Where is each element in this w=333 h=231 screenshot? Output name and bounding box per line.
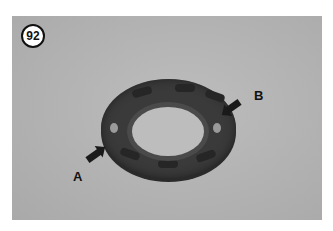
- callout-label-b: B: [254, 88, 263, 103]
- ring-slot: [158, 160, 178, 168]
- callout-label-a: A: [73, 169, 82, 184]
- figure-number-badge: 92: [21, 24, 45, 48]
- ring-center-hole: [132, 107, 204, 156]
- figure-number: 92: [26, 29, 39, 43]
- ring-mount-hole: [213, 123, 221, 133]
- ring-slot: [175, 84, 195, 92]
- ring-mount-hole: [110, 123, 118, 133]
